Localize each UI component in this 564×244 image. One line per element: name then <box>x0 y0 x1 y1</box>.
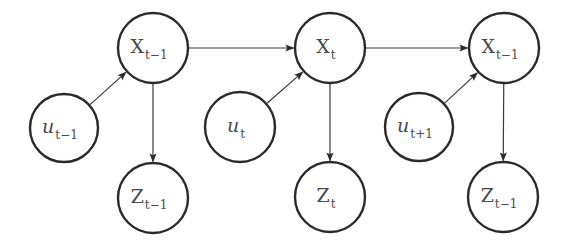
edge-u1-to-x1 <box>90 72 126 104</box>
node-label-subscript: t−1 <box>145 198 168 212</box>
node-label-base: Z <box>481 184 494 206</box>
node-u1: ut−1 <box>30 94 98 162</box>
node-label-base: X <box>316 35 330 57</box>
node-label-base: u <box>227 114 239 136</box>
node-label-subscript: t <box>240 127 245 141</box>
node-z1: Zt−1 <box>118 163 188 233</box>
node-label-base: Z <box>131 185 144 207</box>
edge-x3-to-z3 <box>503 84 504 161</box>
node-x1: Xt−1 <box>118 13 188 83</box>
node-label-subscript: t−1 <box>55 128 78 142</box>
node-label-base: X <box>130 35 144 57</box>
node-label-subscript: t−1 <box>495 197 518 211</box>
node-u3: ut+1 <box>385 93 453 161</box>
nodes: Xt−1XtXt−1ut−1utut+1Zt−1ZtZt−1 <box>30 13 539 233</box>
node-label-subscript: t <box>331 197 336 211</box>
edge-u3-to-x3 <box>445 73 478 103</box>
node-z2: Zt <box>295 162 365 232</box>
node-label-subscript: t+1 <box>410 127 433 141</box>
node-label-base: X <box>481 35 495 57</box>
edge-u2-to-x2 <box>267 72 303 103</box>
node-label-subscript: t <box>331 48 336 62</box>
node-z3: Zt−1 <box>468 162 538 232</box>
node-label-base: Z <box>316 184 329 206</box>
node-x3: Xt−1 <box>469 13 539 83</box>
node-label-base: u <box>397 114 409 136</box>
node-x2: Xt <box>295 13 365 83</box>
node-label-subscript: t−1 <box>145 48 168 62</box>
dynamic-bayesian-network-diagram: Xt−1XtXt−1ut−1utut+1Zt−1ZtZt−1 <box>0 0 564 244</box>
node-label-subscript: t−1 <box>496 48 519 62</box>
node-u2: ut <box>205 92 275 162</box>
node-label-base: u <box>42 115 54 137</box>
